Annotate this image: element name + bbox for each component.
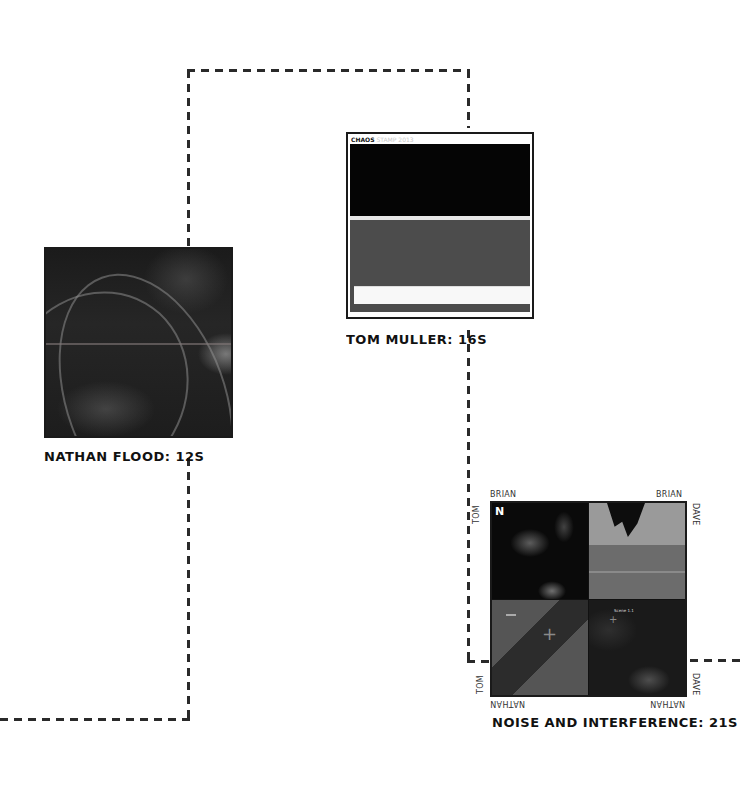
connector-noise-exit: [690, 659, 744, 662]
quadrant-brian-dave[interactable]: [589, 503, 685, 599]
nathan-flood-label: NATHAN FLOOD: 12S: [44, 450, 204, 464]
corner-label-right-bottom: DAVE: [691, 673, 700, 696]
logo-icon: N: [495, 506, 504, 517]
corner-label-bottom-left: NATHAN: [490, 699, 525, 708]
connector-bottom: [0, 718, 190, 721]
quadrant-tom-nathan[interactable]: +: [492, 600, 588, 696]
dark-foliage-shape: [607, 503, 645, 537]
noise-interference-label: NOISE AND INTERFERENCE: 21S: [492, 716, 738, 730]
corner-label-left-bottom: TOM: [476, 675, 485, 694]
nathan-flood-image[interactable]: [44, 247, 233, 438]
connector-into-noise: [467, 660, 490, 663]
black-panel: [350, 144, 530, 216]
tom-muller-window[interactable]: CHAOSSTAMP 2013: [346, 132, 534, 319]
connector-tom-down: [467, 70, 470, 128]
connector-nathan-up: [187, 70, 190, 248]
corner-label-left-top: TOM: [472, 505, 481, 524]
scene-tag: Scene 1.1: [614, 608, 634, 613]
quadrant-brian-tom[interactable]: N: [492, 503, 588, 599]
glitch-streak: [46, 343, 231, 345]
corner-label-bottom-right: NATHAN: [650, 699, 685, 708]
connector-top: [187, 69, 470, 72]
white-bar: [354, 286, 530, 304]
window-title: CHAOS: [351, 136, 375, 143]
connector-nathan-down: [187, 458, 190, 720]
connector-tom-to-noise: [467, 330, 470, 662]
crosshair-icon: +: [609, 614, 617, 625]
gray-panel: [350, 220, 530, 312]
window-subtitle: STAMP 2013: [377, 136, 414, 143]
corner-label-right-top: DAVE: [691, 503, 700, 526]
corner-label-top-right: BRIAN: [656, 490, 682, 499]
plus-icon: +: [542, 625, 557, 643]
minus-icon: [506, 614, 516, 616]
window-titlebar: CHAOSSTAMP 2013: [350, 136, 530, 144]
noise-interference-grid[interactable]: N + Scene 1.1 +: [490, 501, 687, 697]
tom-muller-label: TOM MULLER: 16S: [346, 333, 487, 347]
corner-label-top-left: BRIAN: [490, 490, 516, 499]
quadrant-dave-nathan[interactable]: Scene 1.1 +: [589, 600, 685, 696]
